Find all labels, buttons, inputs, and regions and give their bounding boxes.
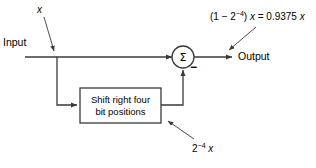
transfer-result-variable: x (300, 11, 305, 22)
shift-block-line-2: bit positions (95, 106, 145, 118)
transfer-prefix: (1 − 2 (210, 11, 236, 22)
feedback-signal-label: 2−4 x (192, 142, 213, 155)
shift-block-feedback-line (161, 70, 183, 105)
signal-x-label: x (37, 4, 42, 16)
shift-block-line-1: Shift right four (91, 94, 150, 106)
transfer-exponent: −4 (236, 10, 244, 17)
block-diagram-canvas: x Input Output (1 − 2−4) x = 0.9375 x 2−… (0, 0, 316, 168)
transfer-equals: = 0.9375 (255, 11, 300, 22)
branch-to-shift-block-line (57, 57, 77, 105)
feedback-label-leader-line (168, 121, 194, 139)
output-label: Output (238, 50, 270, 62)
feedback-variable: x (208, 143, 213, 154)
adder-minus-sign: − (190, 61, 197, 73)
shift-register-block-label: Shift right four bit positions (80, 88, 161, 123)
input-label: Input (3, 36, 26, 48)
transfer-label-leader-line (229, 27, 256, 50)
diagram-vector-layer (0, 0, 316, 168)
x-label-leader-line (44, 17, 54, 51)
transfer-function-label: (1 − 2−4) x = 0.9375 x (210, 10, 305, 23)
feedback-exponent: −4 (198, 142, 206, 149)
